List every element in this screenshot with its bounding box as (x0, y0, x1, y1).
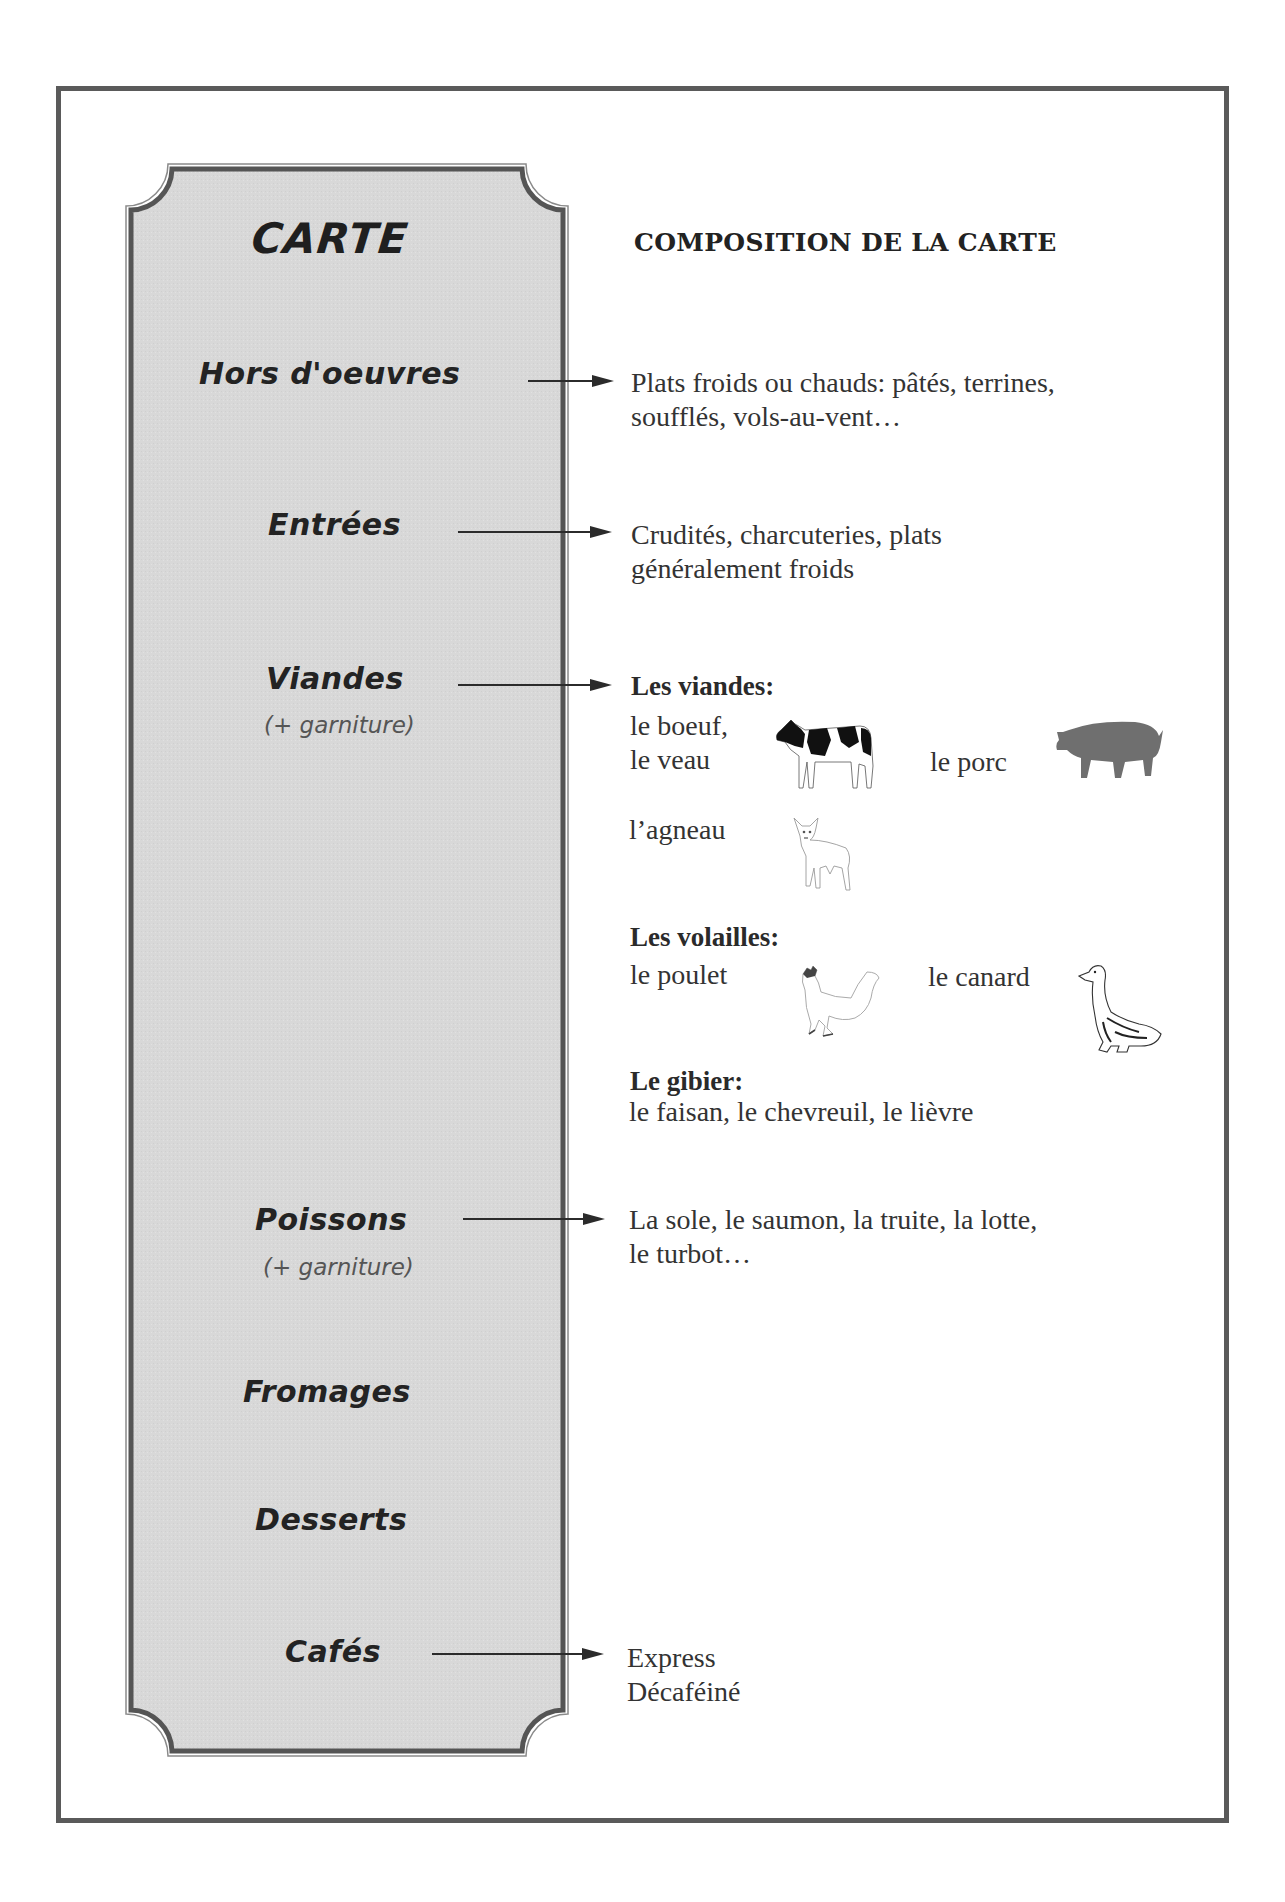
item-poulet: le poulet (630, 958, 727, 992)
arrow-right-icon (528, 375, 614, 387)
course-desserts: Desserts (255, 1505, 407, 1535)
entrees-description: Crudités, charcuteries, plats généraleme… (631, 518, 942, 586)
gibier-heading: Le gibier: (630, 1068, 743, 1095)
hors-doeuvres-description: Plats froids ou chauds: pâtés, terrines,… (631, 366, 1055, 434)
description-line: Décaféiné (627, 1675, 740, 1709)
pig-icon (1055, 716, 1165, 782)
course-poissons: Poissons (255, 1205, 407, 1235)
viandes-boeuf-veau: le boeuf, le veau (630, 709, 728, 777)
item-porc: le porc (930, 745, 1007, 779)
description-line: le turbot… (629, 1237, 1037, 1271)
course-cafes: Cafés (285, 1637, 381, 1667)
description-line: généralement froids (631, 552, 942, 586)
description-line: soufflés, vols-au-vent… (631, 400, 1055, 434)
arrow-right-icon (432, 1648, 604, 1660)
course-fromages: Fromages (243, 1377, 411, 1407)
item-boeuf: le boeuf, (630, 709, 728, 743)
course-hors-doeuvres: Hors d'oeuvres (199, 359, 460, 389)
poissons-description: La sole, le saumon, la truite, la lotte,… (629, 1203, 1037, 1271)
description-line: La sole, le saumon, la truite, la lotte, (629, 1203, 1037, 1237)
gibier-items: le faisan, le chevreuil, le lièvre (629, 1095, 973, 1129)
composition-heading: COMPOSITION DE LA CARTE (634, 230, 1057, 255)
item-veau: le veau (630, 743, 728, 777)
rooster-icon (797, 964, 881, 1042)
cow-icon (775, 716, 877, 792)
course-viandes: Viandes (266, 664, 404, 694)
course-poissons-note: (+ garniture) (263, 1256, 414, 1279)
description-line: Express (627, 1641, 740, 1675)
arrow-right-icon (463, 1213, 605, 1225)
course-viandes-note: (+ garniture) (264, 714, 415, 737)
description-line: Crudités, charcuteries, plats (631, 518, 942, 552)
viandes-heading: Les viandes: (631, 673, 774, 700)
menu-title: CARTE (249, 214, 410, 263)
item-agneau: l’agneau (629, 813, 725, 847)
arrow-right-icon (458, 679, 612, 691)
course-entrees: Entrées (268, 510, 401, 540)
duck-icon (1077, 962, 1165, 1054)
lamb-icon (790, 816, 858, 894)
item-canard: le canard (928, 960, 1030, 994)
description-line: Plats froids ou chauds: pâtés, terrines, (631, 366, 1055, 400)
volailles-heading: Les volailles: (630, 924, 779, 951)
cafes-description: Express Décaféiné (627, 1641, 740, 1709)
arrow-right-icon (458, 526, 612, 538)
